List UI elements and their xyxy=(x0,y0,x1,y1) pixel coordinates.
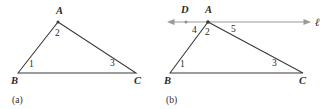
angle-label-4-panel-b: 4 xyxy=(192,25,197,35)
figure-canvas: A B C 1 2 3 (a) ℓ A D B C 1 2 3 xyxy=(0,0,330,109)
angle-label-1-panel-a: 1 xyxy=(29,59,34,69)
panel-a: A B C 1 2 3 (a) xyxy=(10,5,142,106)
triangle-abc-a xyxy=(18,22,136,73)
point-label-a-panel-b: A xyxy=(204,4,212,15)
vertex-dot-d-panel-b xyxy=(185,21,188,24)
caption-panel-b: (b) xyxy=(166,95,177,106)
angle-label-2-panel-b: 2 xyxy=(205,27,210,37)
line-label-ell: ℓ xyxy=(315,16,320,28)
angle-label-3-panel-a: 3 xyxy=(110,58,115,68)
point-label-c-panel-a: C xyxy=(134,75,142,86)
geometry-figure: A B C 1 2 3 (a) ℓ A D B C 1 2 3 xyxy=(0,0,330,109)
vertex-dot-a-panel-a xyxy=(57,21,60,24)
line-ell-arrow-right xyxy=(304,19,312,25)
point-label-b-panel-b: B xyxy=(163,75,171,86)
point-label-b-panel-a: B xyxy=(10,75,18,86)
vertex-dot-a-panel-b xyxy=(206,20,210,24)
angle-label-5-panel-b: 5 xyxy=(231,24,236,34)
caption-panel-a: (a) xyxy=(12,95,23,106)
angle-label-1-panel-b: 1 xyxy=(180,59,185,69)
panel-b: ℓ A D B C 1 2 3 4 5 (b) xyxy=(163,4,320,106)
point-label-d-panel-b: D xyxy=(180,4,189,15)
line-ell-arrow-left xyxy=(167,19,175,25)
angle-label-2-panel-a: 2 xyxy=(55,28,60,38)
point-label-c-panel-b: C xyxy=(299,75,307,86)
point-label-a-panel-a: A xyxy=(55,5,63,16)
triangle-abc-b xyxy=(170,22,303,73)
angle-label-3-panel-b: 3 xyxy=(272,58,277,68)
